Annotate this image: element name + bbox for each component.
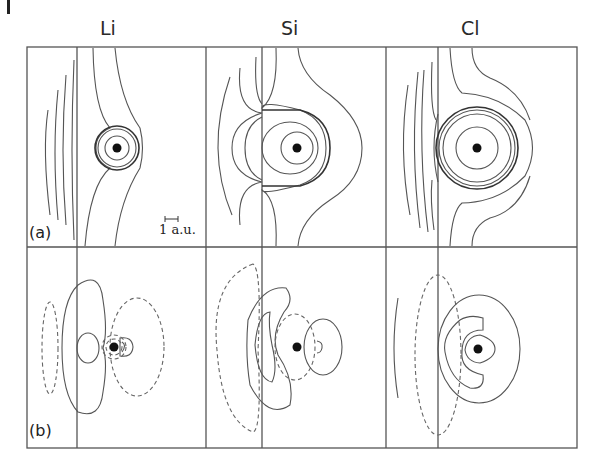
panel-b-cl	[394, 275, 520, 435]
nucleus-li-b	[110, 343, 119, 352]
nucleus-li-a	[113, 144, 122, 153]
nucleus-cl-a	[473, 144, 482, 153]
panel-b-li	[42, 280, 164, 414]
nucleus-si-a	[293, 144, 302, 153]
nucleus-cl-b	[474, 345, 483, 354]
panel-a-si	[218, 48, 362, 246]
panel-b-si	[216, 264, 342, 432]
scale-bar-label: 1 a.u.	[159, 222, 196, 237]
nucleus-si-b	[293, 343, 302, 352]
panel-a-cl	[403, 48, 532, 246]
row-label-b: (b)	[29, 421, 52, 440]
panel-a-li	[45, 48, 142, 246]
row-label-a: (a)	[29, 223, 51, 242]
contour-figure	[0, 0, 593, 467]
